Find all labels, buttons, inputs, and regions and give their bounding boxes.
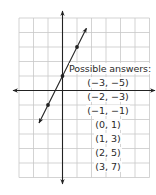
grid-lines xyxy=(19,18,150,178)
coordinate-graph xyxy=(0,0,156,195)
